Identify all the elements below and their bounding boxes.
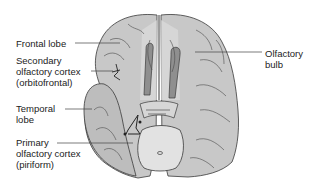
label-temporal-lobe: Temporal lobe	[16, 103, 55, 125]
label-primary-olfactory-cortex: Primary olfactory cortex (piriform)	[16, 137, 80, 170]
label-olfactory-bulb: Olfactory bulb	[265, 48, 303, 70]
brain-olfactory-diagram: Frontal lobe Secondary olfactory cortex …	[0, 0, 317, 194]
label-frontal-lobe: Frontal lobe	[16, 38, 66, 49]
label-secondary-olfactory-cortex: Secondary olfactory cortex (orbitofronta…	[16, 55, 80, 88]
brainstem	[138, 126, 184, 172]
